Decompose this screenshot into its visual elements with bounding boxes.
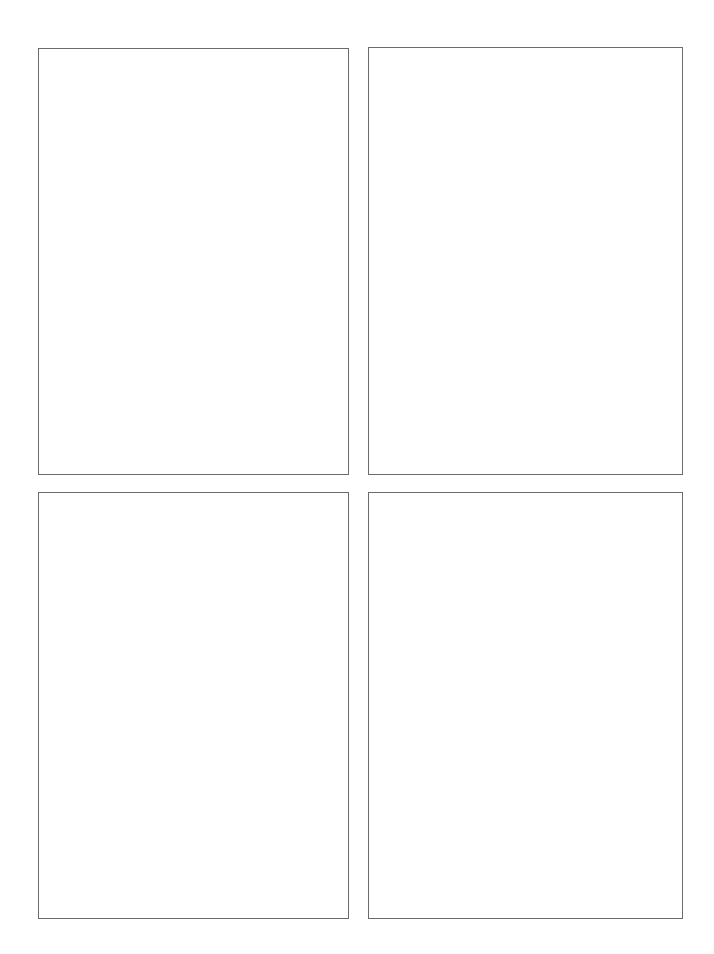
- page-grid: [0, 0, 714, 954]
- panel-top-right: [368, 47, 683, 475]
- panel-bottom-right: [368, 492, 683, 919]
- panel-bottom-left: [38, 492, 349, 919]
- panel-top-left: [38, 48, 349, 475]
